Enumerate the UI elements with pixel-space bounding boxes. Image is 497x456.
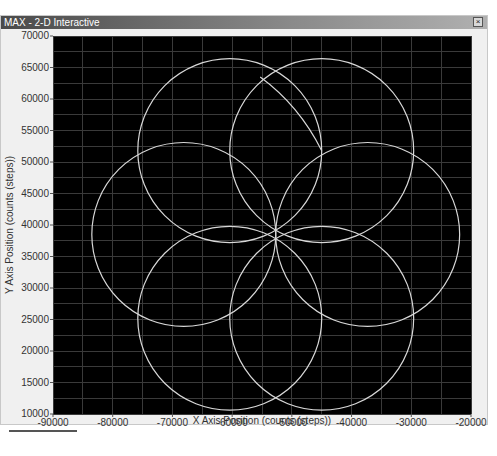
x-tick-label: -80000 (97, 417, 129, 426)
y-tick-label: 15000 (21, 377, 49, 388)
y-tick-label: 35000 (21, 251, 49, 262)
y-tick-label: 25000 (21, 314, 49, 325)
y-tick-label: 10000 (21, 408, 49, 419)
y-tick-label: 65000 (21, 62, 49, 73)
y-tick-label: 45000 (21, 188, 49, 199)
y-tick-label: 55000 (21, 125, 49, 136)
y-tick-label: 20000 (21, 345, 49, 356)
plot-chart[interactable]: -90000-80000-70000-60000-50000-40000-300… (1, 16, 489, 426)
y-tick-label: 60000 (21, 93, 49, 104)
y-tick-label: 50000 (21, 156, 49, 167)
status-bar-divider (9, 430, 77, 432)
x-tick-label: -70000 (157, 417, 189, 426)
y-axis-ticks: 1000015000200002500030000350004000045000… (21, 30, 53, 419)
chart-window: MAX - 2-D Interactive × -90000-80000-700… (0, 15, 488, 425)
y-axis-title: Y Axis Position (counts (steps)) (4, 156, 15, 294)
y-tick-label: 40000 (21, 219, 49, 230)
y-tick-label: 30000 (21, 282, 49, 293)
y-tick-label: 70000 (21, 30, 49, 41)
x-axis-title: X Axis Position (counts (steps)) (193, 415, 331, 426)
x-tick-label: -40000 (336, 417, 368, 426)
x-tick-label: -20000 (455, 417, 487, 426)
x-tick-label: -30000 (396, 417, 428, 426)
